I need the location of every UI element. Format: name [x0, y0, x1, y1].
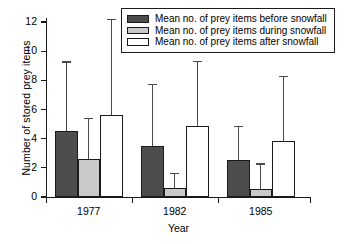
error-bar-cap-after-1982 [193, 61, 202, 62]
legend-item: Mean no. of prey items after snowfall [127, 36, 327, 48]
error-bar-cap-during-1985 [256, 163, 265, 164]
x-axis-title: Year [46, 222, 311, 234]
error-bar-line-during-1977 [88, 118, 89, 160]
bar-during-1985 [250, 189, 273, 197]
error-bar-cap-after-1985 [279, 76, 288, 77]
error-bar-cap-during-1977 [84, 118, 93, 119]
legend-swatch-after-icon [127, 38, 149, 46]
legend-item: Mean no. of prey items before snowfall [127, 13, 327, 25]
error-bar-cap-during-1982 [170, 173, 179, 174]
bar-before-1977 [55, 131, 78, 197]
legend-label-during: Mean no. of prey items during snowfall [155, 25, 326, 36]
y-tick-label: 4 [0, 133, 37, 143]
y-tick-label: 6 [0, 104, 37, 114]
bar-before-1985 [227, 160, 250, 197]
bar-after-1985 [272, 141, 295, 197]
legend-swatch-during-icon [127, 27, 149, 35]
error-bar-cap-before-1982 [148, 84, 157, 85]
x-tick-mark [132, 198, 133, 203]
error-bar-cap-after-1977 [107, 19, 116, 20]
x-tick-label: 1985 [231, 205, 291, 217]
y-axis-line [46, 18, 47, 198]
error-bar-cap-before-1985 [234, 126, 243, 127]
legend-swatch-before-icon [127, 15, 149, 23]
bar-during-1977 [78, 159, 101, 197]
error-bar-line-after-1985 [283, 76, 284, 141]
x-tick-label: 1977 [59, 205, 119, 217]
y-tick-label: 12 [0, 16, 37, 26]
y-tick-label: 2 [0, 162, 37, 172]
legend-label-after: Mean no. of prey items after snowfall [155, 36, 318, 47]
bar-before-1982 [141, 146, 164, 197]
y-tick-label: 0 [0, 191, 37, 201]
x-tick-mark [310, 198, 311, 203]
error-bar-line-before-1985 [238, 126, 239, 160]
error-bar-line-after-1982 [197, 61, 198, 127]
error-bar-line-after-1977 [111, 19, 112, 115]
x-tick-mark [46, 198, 47, 203]
bar-during-1982 [164, 188, 187, 197]
x-axis-line [46, 197, 311, 198]
bar-chart-figure: Number of stored prey items 024681012 19… [0, 0, 361, 244]
legend-label-before: Mean no. of prey items before snowfall [155, 13, 327, 24]
y-tick-label: 10 [0, 45, 37, 55]
x-tick-label: 1982 [145, 205, 205, 217]
error-bar-line-before-1977 [66, 61, 67, 131]
legend: Mean no. of prey items before snowfall M… [121, 8, 335, 53]
x-tick-mark [218, 198, 219, 203]
y-tick-label: 8 [0, 74, 37, 84]
legend-item: Mean no. of prey items during snowfall [127, 25, 327, 37]
error-bar-line-during-1985 [260, 163, 261, 189]
bar-after-1982 [186, 126, 209, 197]
bar-after-1977 [100, 115, 123, 197]
error-bar-cap-before-1977 [62, 61, 71, 62]
error-bar-line-during-1982 [174, 173, 175, 188]
error-bar-line-before-1982 [152, 84, 153, 146]
